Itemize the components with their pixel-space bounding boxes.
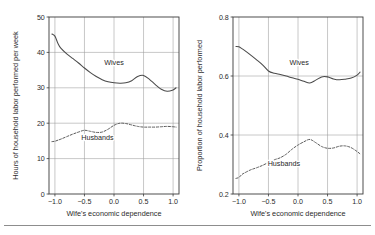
x-axis-title: Wife's economic dependence xyxy=(66,209,161,218)
series-label-husbands: Husbands xyxy=(268,159,301,168)
x-tick-label: −1.0 xyxy=(48,198,62,206)
y-tick-label: 0 xyxy=(41,191,45,199)
footer-divider xyxy=(4,225,371,226)
x-tick-label: −0.5 xyxy=(261,198,275,206)
x-tick-label: −0.5 xyxy=(77,198,91,206)
x-tick-label: −1.0 xyxy=(232,198,246,206)
y-axis-title: Proportion of household labor performed xyxy=(195,40,204,171)
y-tick-label: 50 xyxy=(37,14,45,22)
y-tick-label: 10 xyxy=(37,155,45,163)
figure-container: −1.0−0.50.00.51.001020304050WivesWivesHu… xyxy=(0,0,375,235)
y-tick-label: 0.4 xyxy=(219,132,229,140)
series-label-wives: Wives xyxy=(289,58,309,67)
series-label-wives: Wives xyxy=(104,58,124,67)
x-axis-title: Wife's economic dependence xyxy=(250,209,345,218)
hours-chart-svg: −1.0−0.50.00.51.001020304050WivesWivesHu… xyxy=(0,0,187,235)
x-tick-label: 1.0 xyxy=(168,198,178,206)
proportion-chart-svg: −1.0−0.50.00.51.00.20.40.60.8WivesWivesH… xyxy=(187,0,375,235)
y-tick-label: 0.2 xyxy=(219,191,229,199)
y-tick-label: 0.8 xyxy=(219,14,229,22)
y-tick-label: 20 xyxy=(37,120,45,128)
x-tick-label: 0.5 xyxy=(139,198,149,206)
y-tick-label: 30 xyxy=(37,84,45,92)
x-tick-label: 0.0 xyxy=(109,198,119,206)
x-tick-label: 0.0 xyxy=(293,198,303,206)
chart-panel-hours: −1.0−0.50.00.51.001020304050WivesWivesHu… xyxy=(0,0,187,235)
y-axis-title: Hours of household labor performed per w… xyxy=(11,31,20,180)
series-label-husbands: Husbands xyxy=(81,133,114,142)
y-tick-label: 40 xyxy=(37,49,45,57)
x-tick-label: 0.5 xyxy=(323,198,333,206)
chart-panel-proportion: −1.0−0.50.00.51.00.20.40.60.8WivesWivesH… xyxy=(187,0,374,235)
x-tick-label: 1.0 xyxy=(352,198,362,206)
y-tick-label: 0.6 xyxy=(219,73,229,81)
